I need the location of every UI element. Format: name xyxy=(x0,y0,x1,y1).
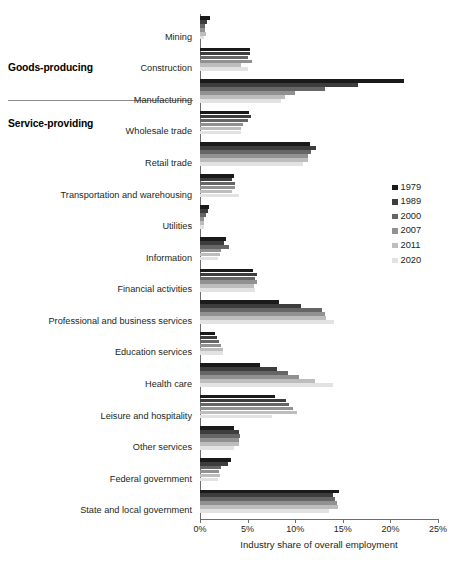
x-tick xyxy=(248,519,249,523)
legend-swatch xyxy=(392,214,398,220)
x-tick xyxy=(200,519,201,523)
category-label: Education services xyxy=(0,347,192,357)
legend-swatch xyxy=(392,258,398,264)
legend-label: 2000 xyxy=(401,212,422,221)
category-label: Construction xyxy=(0,63,192,73)
category-label: Transportation and warehousing xyxy=(0,190,192,200)
bar xyxy=(200,351,223,355)
category-label: Utilities xyxy=(0,221,192,231)
legend-swatch xyxy=(392,228,398,234)
legend-item[interactable]: 2020 xyxy=(392,253,454,268)
legend-item[interactable]: 2007 xyxy=(392,224,454,239)
x-tick xyxy=(343,519,344,523)
x-tick-label: 10% xyxy=(286,524,304,534)
category-label: Professional and business services xyxy=(0,316,192,326)
bar-chart: Goods-producingService-providing MiningC… xyxy=(0,0,459,562)
category-label: Other services xyxy=(0,442,192,452)
bar xyxy=(200,225,204,229)
bar xyxy=(200,446,234,450)
x-tick-label: 0% xyxy=(193,524,206,534)
chart-legend: 197919892000200720112020 xyxy=(392,180,454,268)
x-tick-label: 25% xyxy=(429,524,447,534)
legend-label: 2011 xyxy=(401,241,421,250)
x-tick-label: 15% xyxy=(334,524,352,534)
legend-item[interactable]: 2011 xyxy=(392,238,454,253)
bar xyxy=(200,131,241,135)
legend-swatch xyxy=(392,243,398,249)
bar xyxy=(200,36,204,40)
bar xyxy=(200,194,239,198)
legend-label: 1989 xyxy=(401,197,422,206)
legend-item[interactable]: 1989 xyxy=(392,195,454,210)
legend-label: 1979 xyxy=(401,183,422,192)
x-tick-label: 5% xyxy=(241,524,254,534)
legend-label: 2007 xyxy=(401,226,422,235)
category-label: Leisure and hospitality xyxy=(0,411,192,421)
x-tick xyxy=(438,519,439,523)
category-label: Wholesale trade xyxy=(0,126,192,136)
legend-item[interactable]: 2000 xyxy=(392,209,454,224)
bar xyxy=(200,478,218,482)
category-label: Financial activities xyxy=(0,284,192,294)
bar xyxy=(200,383,333,387)
bar xyxy=(200,509,329,513)
legend-swatch xyxy=(392,185,398,191)
bar xyxy=(200,288,255,292)
legend-item[interactable]: 1979 xyxy=(392,180,454,195)
x-tick xyxy=(295,519,296,523)
bar xyxy=(200,415,272,419)
x-axis-label: Industry share of overall employment xyxy=(200,539,438,550)
x-tick xyxy=(390,519,391,523)
legend-swatch xyxy=(392,199,398,205)
category-label: State and local government xyxy=(0,505,192,515)
x-axis-line xyxy=(200,519,438,520)
bar xyxy=(200,162,303,166)
bar xyxy=(200,257,218,261)
category-label: Information xyxy=(0,253,192,263)
category-label: Health care xyxy=(0,379,192,389)
bar xyxy=(200,99,281,103)
category-label: Manufacturing xyxy=(0,95,192,105)
category-label: Mining xyxy=(0,32,192,42)
bar xyxy=(200,67,248,71)
category-label: Federal government xyxy=(0,474,192,484)
category-label: Retail trade xyxy=(0,158,192,168)
bar xyxy=(200,320,334,324)
x-tick-label: 20% xyxy=(381,524,399,534)
legend-label: 2020 xyxy=(401,256,422,265)
